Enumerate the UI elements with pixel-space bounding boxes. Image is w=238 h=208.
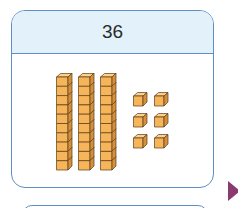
ten-rod-3 [100,73,117,171]
ten-rod-2 [78,73,95,171]
unit-cube-5 [133,134,148,149]
unit-cube-1 [133,92,148,107]
unit-cube-6 [154,134,169,149]
next-card [22,205,208,208]
number-card: 36 [11,10,214,188]
number-label: 36 [102,21,123,43]
unit-cube-2 [154,92,169,107]
card-header: 36 [12,11,213,54]
next-arrow-icon[interactable] [228,181,238,201]
unit-cube-3 [133,113,148,128]
unit-cube-4 [154,113,169,128]
ten-rod-1 [56,73,73,171]
